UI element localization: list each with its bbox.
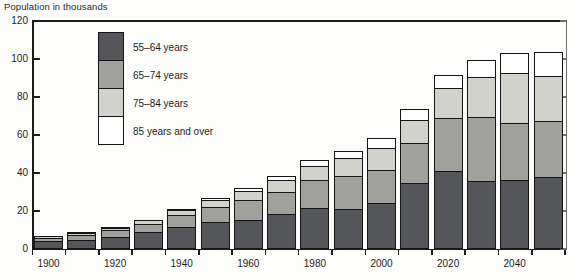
chart-page: Population in thousands 020406080100120 … — [0, 0, 570, 278]
x-axis-label: 2020 — [428, 258, 468, 269]
bar-segment — [367, 203, 396, 249]
x-axis-tick — [431, 250, 433, 255]
legend-swatch: 85 years and over — [98, 116, 124, 145]
bar-segment — [434, 171, 463, 249]
y-axis-label: 60 — [2, 129, 28, 140]
bar-segment — [500, 73, 529, 123]
bar-segment — [467, 117, 496, 182]
bar-segment — [434, 88, 463, 118]
bar-segment — [201, 222, 230, 249]
legend-swatch: 65–74 years — [98, 60, 124, 89]
bar-segment — [334, 158, 363, 177]
y-axis-title: Population in thousands — [4, 1, 108, 12]
y-axis-label: 100 — [2, 53, 28, 64]
x-axis-label: 1940 — [162, 258, 202, 269]
bar-segment — [400, 120, 429, 145]
bar-2010[interactable] — [400, 109, 429, 249]
y-axis-label: 80 — [2, 91, 28, 102]
bar-segment — [334, 209, 363, 249]
bar-2000[interactable] — [367, 138, 396, 249]
bar-segment — [300, 180, 329, 209]
x-axis-label: 1980 — [295, 258, 335, 269]
x-axis-tick — [365, 250, 367, 255]
bar-segment — [434, 118, 463, 172]
bar-segment — [534, 121, 563, 178]
bar-segment — [434, 75, 463, 89]
x-axis-tick — [65, 250, 67, 255]
bar-segment — [500, 123, 529, 181]
bar-segment — [400, 183, 429, 250]
y-axis-label: 0 — [2, 243, 28, 254]
x-axis-label: 2000 — [362, 258, 402, 269]
bar-segment — [367, 170, 396, 204]
y-axis-tick — [34, 20, 40, 22]
bar-1900[interactable] — [34, 236, 63, 249]
bar-2040[interactable] — [500, 53, 529, 249]
x-axis-label: 2040 — [495, 258, 535, 269]
bar-segment — [267, 192, 296, 215]
x-axis-tick — [231, 250, 233, 255]
bar-segment — [334, 176, 363, 210]
bar-segment — [467, 77, 496, 118]
bar-segment — [67, 240, 96, 250]
bar-segment — [400, 143, 429, 183]
bar-2050[interactable] — [534, 52, 563, 249]
bar-segment — [167, 227, 196, 249]
bar-segment — [34, 241, 63, 249]
bar-1990[interactable] — [334, 151, 363, 249]
x-axis-tick — [298, 250, 300, 255]
x-axis-tick — [32, 250, 34, 255]
bar-segment — [500, 53, 529, 74]
legend-label: 75–84 years — [133, 98, 188, 109]
x-axis-tick — [131, 250, 133, 255]
bar-1950[interactable] — [201, 198, 230, 249]
bar-1940[interactable] — [167, 209, 196, 249]
x-axis-tick — [564, 250, 566, 255]
x-axis-tick — [398, 250, 400, 255]
chart-legend: 55–64 years65–74 years75–84 years85 year… — [98, 32, 124, 144]
bar-segment — [201, 207, 230, 223]
y-axis-tick — [34, 134, 40, 136]
plot-right-border — [566, 20, 568, 250]
bar-segment — [500, 180, 529, 249]
bar-1920[interactable] — [101, 227, 130, 249]
bar-segment — [534, 52, 563, 77]
x-axis-label: 1900 — [29, 258, 69, 269]
x-axis-tick — [531, 250, 533, 255]
x-axis-label: 1960 — [228, 258, 268, 269]
y-axis-tick — [34, 58, 40, 60]
bar-segment — [234, 200, 263, 220]
bar-segment — [534, 177, 563, 249]
bar-2030[interactable] — [467, 60, 496, 249]
bar-1910[interactable] — [67, 232, 96, 249]
bar-segment — [167, 215, 196, 228]
bar-segment — [467, 181, 496, 249]
legend-label: 85 years and over — [133, 126, 213, 137]
bar-segment — [234, 220, 263, 249]
bar-segment — [267, 214, 296, 249]
bar-2020[interactable] — [434, 75, 463, 249]
bar-1930[interactable] — [134, 220, 163, 250]
y-axis-label: 40 — [2, 167, 28, 178]
legend-label: 55–64 years — [133, 42, 188, 53]
bar-segment — [134, 232, 163, 249]
bar-1970[interactable] — [267, 176, 296, 249]
x-axis-tick — [198, 250, 200, 255]
legend-label: 65–74 years — [133, 70, 188, 81]
bar-segment — [300, 166, 329, 180]
x-axis-label: 1920 — [95, 258, 135, 269]
bar-1980[interactable] — [300, 160, 329, 249]
bar-segment — [534, 76, 563, 122]
y-axis-tick — [34, 172, 40, 174]
x-axis-tick — [265, 250, 267, 255]
legend-swatch: 75–84 years — [98, 88, 124, 117]
bar-segment — [367, 148, 396, 171]
x-axis-tick — [331, 250, 333, 255]
bar-segment — [101, 237, 130, 249]
y-axis-tick — [34, 210, 40, 212]
x-axis-tick — [165, 250, 167, 255]
y-axis-label: 20 — [2, 205, 28, 216]
y-axis-tick — [34, 96, 40, 98]
bar-1960[interactable] — [234, 188, 263, 249]
legend-swatch: 55–64 years — [98, 32, 124, 61]
